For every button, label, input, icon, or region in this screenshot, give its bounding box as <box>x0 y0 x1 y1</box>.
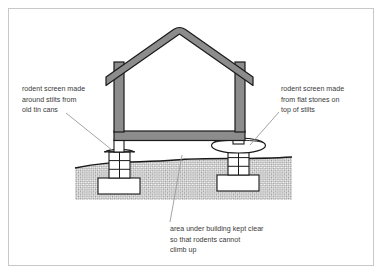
concrete-footing-left <box>98 178 140 194</box>
clear-underfloor-label: area under building kept clear so that r… <box>170 225 264 254</box>
tin-can-screen-label: rodent screen made around stilts from ol… <box>22 85 85 114</box>
label-left-line-2: around stilts from <box>22 96 76 104</box>
roof-band <box>106 28 253 86</box>
leader-line-left <box>66 113 112 150</box>
label-right-line-1: rodent screen made <box>281 85 344 93</box>
leader-line-right <box>250 112 279 145</box>
diagram-canvas: rodent screen made around stilts from ol… <box>0 0 382 274</box>
floor-band <box>114 131 245 141</box>
masonry-pier-left <box>109 152 130 178</box>
gabled-roof <box>106 28 253 86</box>
label-right-line-2: from flat stones on <box>281 96 339 104</box>
flat-stone-screen-label: rodent screen made from flat stones on t… <box>281 85 344 114</box>
label-bottom-line-2: so that rodents cannot <box>170 236 240 244</box>
rodent-proofing-diagram: rodent screen made around stilts from ol… <box>0 0 382 274</box>
label-bottom-line-1: area under building kept clear <box>170 225 264 233</box>
label-right-line-3: top of stilts <box>281 106 315 114</box>
label-bottom-line-3: climb up <box>170 246 196 254</box>
concrete-footing-right <box>217 175 259 191</box>
label-left-line-1: rodent screen made <box>22 85 85 93</box>
stilt-post-left <box>114 140 124 152</box>
label-left-line-3: old tin cans <box>22 106 58 114</box>
